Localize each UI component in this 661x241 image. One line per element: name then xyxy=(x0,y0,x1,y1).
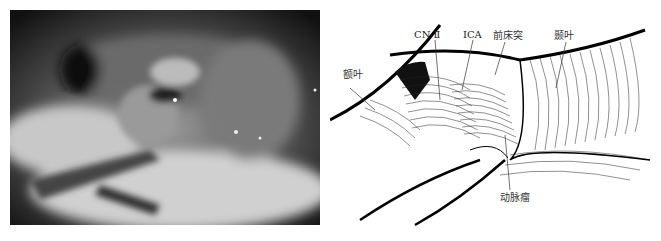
leader-anterior-clinoid xyxy=(495,42,505,75)
label-ica: ICA xyxy=(463,30,482,40)
photo-canvas xyxy=(10,10,320,225)
leader-aneurysm xyxy=(505,135,510,190)
aneurysm-clip xyxy=(470,146,508,158)
label-aneurysm: 动脉瘤 xyxy=(500,193,530,203)
specular-highlight xyxy=(234,130,238,134)
hatching xyxy=(360,38,650,180)
leader-ica xyxy=(462,40,473,90)
specular-highlight xyxy=(173,98,177,102)
leader-cn2 xyxy=(435,40,440,100)
specular-highlight xyxy=(314,89,317,92)
specular-highlight xyxy=(259,137,262,140)
label-cn2: CN Ⅱ xyxy=(414,30,440,40)
label-anterior-clinoid: 前床突 xyxy=(493,31,523,41)
label-frontal-lobe: 额叶 xyxy=(343,70,363,80)
temporal-tissue xyxy=(200,40,300,160)
anatomical-illustration: CN Ⅱ ICA 前床突 颞叶 额叶 动脉瘤 xyxy=(330,0,661,241)
dark-cavity xyxy=(60,45,100,95)
leader-temporal-lobe xyxy=(556,42,566,88)
clinoid-highlight xyxy=(150,58,200,86)
label-temporal-lobe: 颞叶 xyxy=(554,31,574,41)
retractor-line-lower xyxy=(415,160,505,225)
intraoperative-photo xyxy=(10,10,320,225)
retractor-line-upper xyxy=(360,160,480,220)
